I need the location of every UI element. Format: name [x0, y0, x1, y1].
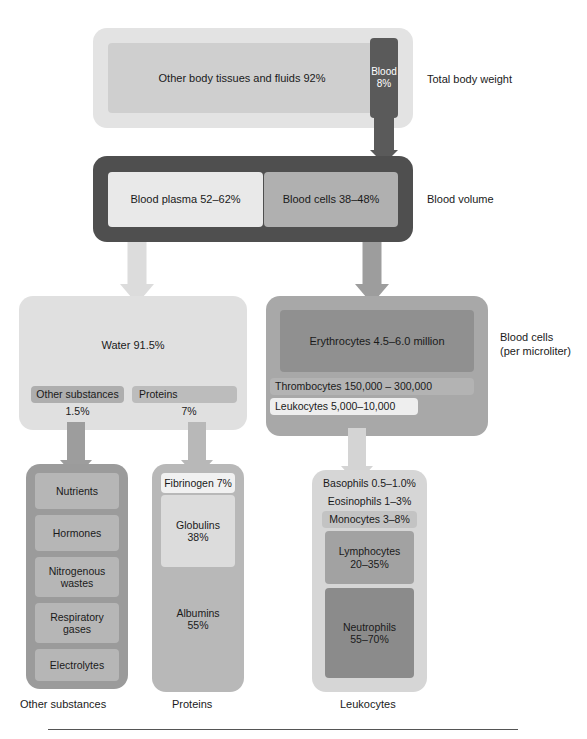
other-substances-percent: 1.5%	[66, 405, 90, 418]
list-item: Nutrients	[35, 473, 119, 509]
blood-box: Blood 8%	[370, 38, 398, 118]
blood-percent-label: 8%	[377, 78, 391, 90]
footer-divider	[48, 729, 518, 730]
other-substance-label: Nitrogenous wastes	[49, 565, 106, 590]
proteins-percent: 7%	[181, 405, 196, 418]
thrombocytes-label: Thrombocytes 150,000 – 300,000	[275, 380, 432, 393]
total-body-weight-row-label: Total body weight	[427, 72, 512, 86]
leukocyte-label: Neutrophils 55–70%	[343, 621, 396, 646]
water-label-wrap: Water 91.5%	[19, 336, 247, 354]
leukocyte-label: Lymphocytes 20–35%	[339, 545, 400, 570]
list-item: Globulins 38%	[161, 495, 235, 567]
list-item: Respiratory gases	[35, 603, 119, 643]
leukocyte-label: Basophils 0.5–1.0%	[323, 477, 416, 490]
blood-plasma-box: Blood plasma 52–62%	[108, 172, 263, 227]
proteins-percent-wrap: 7%	[169, 404, 209, 418]
blood-volume-row-label: Blood volume	[427, 192, 494, 206]
protein-label: Fibrinogen 7%	[164, 477, 232, 490]
protein-label: Albumins 55%	[176, 607, 219, 632]
list-item: Eosinophils 1–3%	[312, 494, 427, 509]
leukocytes-column-caption: Leukocytes	[340, 697, 396, 711]
list-item: Monocytes 3–8%	[322, 511, 417, 528]
leukocytes-column: Basophils 0.5–1.0% Eosinophils 1–3% Mono…	[312, 470, 427, 692]
list-item: Nitrogenous wastes	[35, 557, 119, 597]
list-item: Neutrophils 55–70%	[325, 588, 414, 678]
list-item: Electrolytes	[35, 649, 119, 681]
other-substance-label: Hormones	[53, 527, 101, 540]
arrow-blood-cells-to-cell-composition	[352, 242, 392, 304]
proteins-band-label: Proteins	[139, 388, 178, 401]
proteins-column: Fibrinogen 7% Globulins 38% Albumins 55%	[152, 464, 244, 692]
erythrocytes-box: Erythrocytes 4.5–6.0 million	[280, 310, 474, 372]
other-substances-percent-wrap: 1.5%	[31, 404, 124, 418]
leukocytes-band-label: Leukocytes 5,000–10,000	[275, 400, 395, 413]
proteins-band: Proteins	[132, 386, 237, 403]
blood-composition-diagram: Other body tissues and fluids 92% Blood …	[0, 0, 587, 739]
blood-cells-box: Blood cells 38–48%	[264, 172, 398, 227]
leukocyte-label: Eosinophils 1–3%	[328, 495, 411, 508]
blood-cells-composition-box: Erythrocytes 4.5–6.0 million Thrombocyte…	[266, 296, 488, 436]
other-substances-column: Nutrients Hormones Nitrogenous wastes Re…	[26, 464, 128, 689]
other-substance-label: Electrolytes	[50, 659, 104, 672]
blood-label: Blood	[371, 66, 397, 78]
protein-label: Globulins 38%	[176, 519, 220, 544]
other-substance-label: Respiratory gases	[50, 611, 104, 636]
list-item: Hormones	[35, 515, 119, 551]
other-substance-label: Nutrients	[56, 485, 98, 498]
blood-plasma-label: Blood plasma 52–62%	[130, 193, 240, 206]
leukocytes-band: Leukocytes 5,000–10,000	[270, 398, 418, 415]
list-item: Basophils 0.5–1.0%	[312, 476, 427, 491]
list-item: Albumins 55%	[161, 589, 235, 649]
other-body-tissues-label: Other body tissues and fluids 92%	[159, 72, 326, 85]
other-substances-column-caption: Other substances	[20, 697, 106, 711]
proteins-column-caption: Proteins	[172, 697, 212, 711]
water-label: Water 91.5%	[101, 339, 164, 352]
arrow-plasma-to-plasma-composition	[117, 242, 157, 304]
list-item: Fibrinogen 7%	[161, 473, 235, 493]
thrombocytes-band: Thrombocytes 150,000 – 300,000	[270, 378, 474, 395]
list-item: Lymphocytes 20–35%	[325, 531, 414, 584]
other-body-tissues-box: Other body tissues and fluids 92%	[108, 43, 376, 113]
other-substances-band: Other substances	[31, 386, 124, 403]
erythrocytes-label: Erythrocytes 4.5–6.0 million	[309, 335, 444, 348]
blood-cells-label: Blood cells 38–48%	[283, 193, 380, 206]
other-substances-band-label: Other substances	[36, 388, 118, 401]
plasma-composition-box: Water 91.5% Other substances 1.5% Protei…	[19, 296, 247, 430]
blood-cells-row-label: Blood cells (per microliter)	[500, 330, 571, 358]
leukocyte-label: Monocytes 3–8%	[329, 513, 410, 526]
